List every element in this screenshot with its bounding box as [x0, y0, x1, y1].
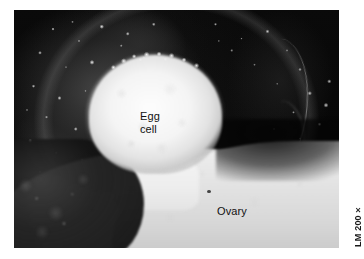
micrograph-figure: Egg cell Ovary LM 200×	[0, 0, 364, 259]
dark-region-upper-right	[216, 119, 340, 181]
magnification-caption: LM 200×	[353, 205, 363, 247]
label-ovary: Ovary	[217, 205, 247, 218]
micrograph-photo	[14, 10, 339, 248]
tissue-dark-speck	[207, 190, 211, 193]
egg-cell-granular-crown	[105, 50, 209, 79]
label-egg-cell: Egg cell	[140, 110, 160, 136]
